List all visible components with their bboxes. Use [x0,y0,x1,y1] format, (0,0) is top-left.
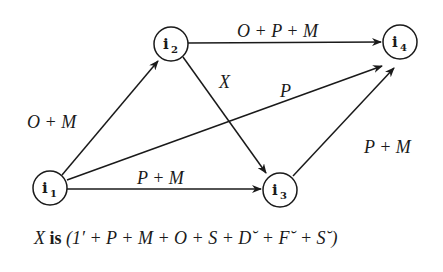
svg-text:1: 1 [50,188,57,199]
edge-i2-i4 [188,42,381,43]
edge-label-i1-i3: P + M [136,168,185,188]
svg-text:3: 3 [280,190,287,201]
edge-label-i1-i4: P [279,81,291,101]
edge-label-i2-i4: O + P + M [237,21,319,41]
edge-label-i1-i2: O + M [27,112,77,132]
node-i2: i 2 [154,27,188,61]
svg-text:2: 2 [171,44,178,55]
svg-text:4: 4 [400,42,407,53]
node-i4: i 4 [383,25,417,59]
caption-expression: (1′ + P + M + O + S + D˘ + F˘ + S˘) [66,228,338,248]
caption: X is (1′ + P + M + O + S + D˘ + F˘ + S˘) [34,228,338,249]
svg-text:i: i [392,33,398,51]
svg-text:i: i [272,181,278,199]
svg-text:i: i [42,179,48,197]
caption-is: is [50,228,62,248]
caption-variable: X [34,228,45,248]
edge-i1-i2 [62,61,158,175]
edge-i3-i4 [293,68,394,176]
edge-label-i3-i4: P + M [363,137,412,157]
edge-label-i2-i3: X [218,72,231,92]
node-i1: i 1 [33,171,67,205]
node-i3: i 3 [263,173,297,207]
svg-text:i: i [163,35,169,53]
